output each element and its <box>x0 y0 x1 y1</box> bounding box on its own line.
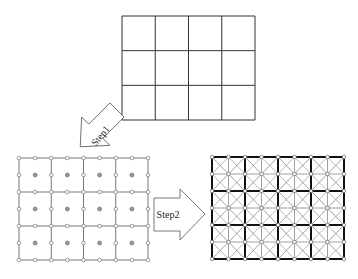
diagram-canvas: Step1 Step2 <box>0 0 358 279</box>
node-mesh <box>17 156 150 262</box>
step1-arrow: Step1 <box>66 96 131 161</box>
step2-label: Step2 <box>157 209 180 220</box>
coarse-mesh <box>122 16 255 120</box>
refined-mesh <box>210 155 346 261</box>
step2-arrow: Step2 <box>154 189 205 240</box>
